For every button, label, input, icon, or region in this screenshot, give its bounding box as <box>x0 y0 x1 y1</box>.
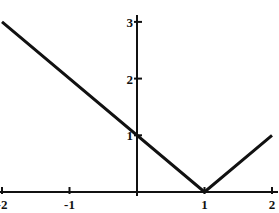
plot-canvas: -2-112 123 <box>0 0 279 213</box>
x-tick-label: -1 <box>64 198 75 211</box>
y-tick-label: 2 <box>121 72 133 85</box>
y-tick-label: 3 <box>121 15 133 28</box>
plot-svg <box>0 0 279 213</box>
x-tick-label: -2 <box>0 198 7 211</box>
y-tick-label: 1 <box>121 129 133 142</box>
x-tick-label: 2 <box>269 198 276 211</box>
x-tick-label: 1 <box>201 198 208 211</box>
